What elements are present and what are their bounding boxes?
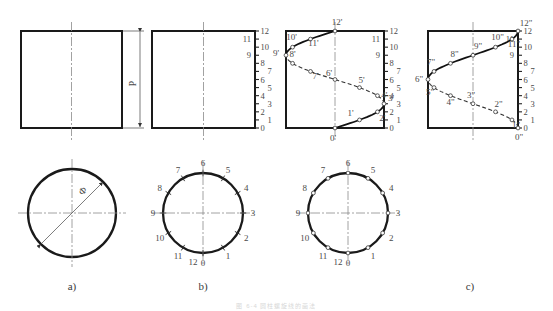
- panel-c-plan-point-label-11: 11: [319, 251, 328, 261]
- panel-c-front-scale-num-5: 5: [397, 83, 401, 93]
- panel-c-front-point-marker-8: [291, 61, 295, 65]
- panel-c-plan-point-marker-0: [346, 251, 350, 255]
- panel-b-scale-num-1: 1: [268, 115, 272, 125]
- panel-c-plan-point-label-9: 9: [296, 208, 301, 218]
- panel-c-side-point-label-3: 3": [467, 90, 476, 100]
- panel-c-front-point-marker-12: [333, 29, 337, 33]
- panel-c-front-point-label-11: 11': [308, 38, 319, 48]
- panel-c-front-scale-num-7: 7: [397, 66, 401, 76]
- panel-b-scale-num-3: 3: [268, 99, 272, 109]
- panel-c-front-scale-num-8: 8: [390, 58, 394, 68]
- panel-c-side-point-marker-10: [494, 45, 498, 49]
- panel-b-plan-point-label-1: 1: [226, 251, 231, 261]
- panel-a-caption: a): [68, 280, 77, 293]
- drawing-canvas: PФ02468101213579110123456789101112024681…: [0, 0, 553, 311]
- panel-c-side-point-label-5: 5": [426, 87, 435, 97]
- panel-c-side-point-label-7: 7": [427, 57, 436, 67]
- panel-c-front-point-label-3: 3': [388, 93, 395, 103]
- panel-c-side-point-label-11: 11": [508, 39, 521, 49]
- panel-c-side-point-marker-6: [426, 78, 430, 82]
- panel-c-plan-point-marker-2: [381, 231, 385, 235]
- panel-b-scale-num-0: 0: [261, 123, 265, 133]
- panel-b-plan-point-label-10: 10: [155, 233, 165, 243]
- panel-c-plan-point-label-3: 3: [396, 208, 401, 218]
- panel-c-front-scale-num-3: 3: [397, 99, 401, 109]
- panel-c-side-scale-num-5: 5: [531, 83, 535, 93]
- panel-c-side-scale-num-8: 8: [524, 58, 528, 68]
- panel-c-front-point-label-6: 6': [326, 68, 333, 78]
- panel-c-side-scale-num-9: 9: [510, 50, 514, 60]
- panel-c-side-point-label-1: 1": [512, 120, 521, 130]
- panel-c-side-point-marker-12: [516, 29, 520, 33]
- panel-b-scale-num-4: 4: [261, 91, 266, 101]
- panel-c-front-point-label-5: 5': [358, 75, 365, 85]
- panel-b-plan-point-label-8: 8: [157, 183, 162, 193]
- panel-c-side-scale-num-0: 0: [524, 123, 528, 133]
- panel-b-plan-point-label-2: 2: [244, 233, 249, 243]
- panel-b-plan-point-label-11: 11: [174, 251, 183, 261]
- panel-c-front-point-marker-1: [358, 118, 362, 122]
- panel-c-plan-point-marker-6: [346, 171, 350, 175]
- panel-c-plan-point-label-10: 10: [300, 233, 310, 243]
- panel-c-plan-point-marker-3: [386, 211, 390, 215]
- panel-c-side-point-marker-2: [494, 110, 498, 114]
- panel-c-side-scale-num-10: 10: [524, 42, 533, 52]
- panel-c-plan-point-label-8: 8: [302, 183, 307, 193]
- panel-b-plan-point-label-4: 4: [244, 183, 249, 193]
- panel-c-side-point-marker-9: [471, 53, 475, 57]
- panel-c-front-point-marker-9: [284, 53, 288, 57]
- panel-b-scale-num-9: 9: [247, 50, 251, 60]
- panel-c-plan-point-label-2: 2: [389, 233, 394, 243]
- panel-a-pitch-label: P: [128, 81, 138, 86]
- panel-c-side-point-label-2: 2": [494, 99, 503, 109]
- panel-c-plan-point-marker-8: [311, 191, 315, 195]
- panel-c-plan-point-label-12: 12: [334, 257, 343, 267]
- panel-c-side-point-label-0: 0": [515, 132, 524, 142]
- panel-c-front-point-label-7: 7': [312, 71, 319, 81]
- panel-c-plan-point-marker-5: [366, 176, 370, 180]
- panel-c-plan-point-marker-4: [381, 191, 385, 195]
- panel-c-plan-point-marker-11: [326, 246, 330, 250]
- panel-c-front-point-label-0: 0': [330, 133, 337, 143]
- panel-b-scale-num-10: 10: [261, 42, 270, 52]
- panel-b-plan-point-label-0: 0: [201, 258, 206, 268]
- panel-b-scale-num-2: 2: [261, 107, 265, 117]
- panel-c-side-point-label-9: 9": [474, 41, 483, 51]
- panel-c-side-point-marker-8: [449, 61, 453, 65]
- panel-c-side-scale-num-2: 2: [524, 107, 528, 117]
- panel-c-side-point-label-10: 10": [491, 32, 504, 42]
- panel-c-front-point-label-12: 12': [332, 17, 343, 27]
- panel-c-front-helix-solid-lower: [335, 104, 384, 128]
- panel-b-scale-num-5: 5: [268, 83, 272, 93]
- panel-b-scale-num-7: 7: [268, 66, 272, 76]
- panel-c-front-point-marker-0: [333, 126, 337, 130]
- panel-c-front-scale-num-12: 12: [390, 26, 399, 36]
- panel-c-front-point-label-4: 4': [381, 90, 388, 100]
- panel-c-plan-point-label-5: 5: [371, 165, 376, 175]
- panel-c-front-point-label-1: 1': [347, 108, 354, 118]
- panel-c-front-point-marker-5: [358, 86, 362, 90]
- panel-c-caption: c): [466, 280, 475, 293]
- panel-c-front-point-label-2: 2': [379, 113, 386, 123]
- panel-c-plan-point-marker-10: [311, 231, 315, 235]
- panel-c-plan-point-label-0: 0: [346, 258, 351, 268]
- panel-b-plan-point-label-9: 9: [151, 208, 156, 218]
- panel-c-side-scale-num-6: 6: [524, 75, 528, 85]
- panel-c-side-point-label-4: 4": [446, 97, 455, 107]
- panel-c-side-point-label-12: 12": [520, 18, 533, 28]
- panel-a-diameter-label: Ф: [77, 184, 90, 197]
- panel-c-side-point-label-8: 8": [450, 49, 459, 59]
- panel-c-side-scale-num-1: 1: [531, 115, 535, 125]
- panel-b-scale-num-6: 6: [261, 75, 265, 85]
- panel-c-front-point-label-8: 8': [290, 49, 297, 59]
- panel-c-front-scale-num-2: 2: [390, 107, 394, 117]
- panel-b-scale-num-8: 8: [261, 58, 265, 68]
- panel-b-plan-point-label-3: 3: [251, 208, 256, 218]
- panel-c-front-point-marker-3: [382, 102, 386, 106]
- panel-b-scale-num-11: 11: [243, 34, 251, 44]
- panel-c-side-point-marker-7: [432, 70, 436, 74]
- panel-c-side-point-label-6: 6": [415, 74, 424, 84]
- panel-c-plan-point-label-1: 1: [371, 251, 376, 261]
- panel-c-front-point-marker-10: [291, 45, 295, 49]
- panel-c-front-scale-num-9: 9: [376, 50, 380, 60]
